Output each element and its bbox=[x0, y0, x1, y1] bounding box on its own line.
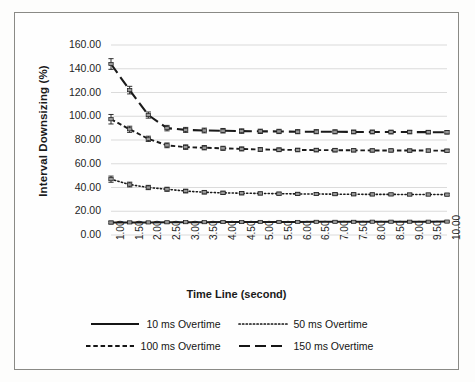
data-point-marker bbox=[165, 188, 169, 191]
y-tick-label: 20.00 bbox=[45, 204, 101, 216]
data-point-marker bbox=[295, 220, 299, 223]
data-point-marker bbox=[221, 191, 225, 194]
data-point-marker bbox=[426, 193, 430, 196]
data-point-marker bbox=[445, 131, 449, 134]
legend-swatch-10ms bbox=[89, 319, 141, 329]
data-point-marker bbox=[221, 220, 225, 223]
series-3 bbox=[108, 59, 449, 134]
y-tick-label: 0.00 bbox=[45, 228, 101, 240]
x-tick-label: 10.00 bbox=[451, 215, 462, 240]
data-point-marker bbox=[389, 193, 393, 196]
legend-item-150ms: 150 ms Overtime bbox=[237, 340, 390, 352]
x-tick-label: 7.50 bbox=[358, 221, 369, 240]
data-point-marker bbox=[277, 220, 281, 223]
data-point-marker bbox=[221, 147, 225, 150]
data-point-marker bbox=[445, 220, 449, 223]
data-point-marker bbox=[258, 192, 262, 195]
data-point-marker bbox=[165, 221, 169, 224]
data-point-marker bbox=[333, 130, 337, 133]
legend-item-10ms: 10 ms Overtime bbox=[89, 318, 236, 330]
data-point-marker bbox=[202, 191, 206, 194]
data-point-marker bbox=[333, 149, 337, 152]
data-point-marker bbox=[258, 148, 262, 151]
data-point-marker bbox=[314, 220, 318, 223]
series-line bbox=[111, 64, 447, 132]
series-1 bbox=[108, 176, 449, 196]
data-point-marker bbox=[127, 89, 131, 92]
x-tick-label: 5.50 bbox=[283, 221, 294, 240]
data-point-marker bbox=[239, 220, 243, 223]
x-tick-label: 8.00 bbox=[376, 221, 387, 240]
data-point-marker bbox=[258, 220, 262, 223]
data-point-marker bbox=[146, 113, 150, 116]
legend-label-100ms: 100 ms Overtime bbox=[141, 340, 221, 352]
data-point-marker bbox=[183, 128, 187, 131]
data-point-marker bbox=[109, 118, 113, 121]
legend-label-50ms: 50 ms Overtime bbox=[294, 318, 368, 330]
y-tick-label: 80.00 bbox=[45, 133, 101, 145]
data-point-marker bbox=[351, 193, 355, 196]
data-point-marker bbox=[239, 129, 243, 132]
data-point-marker bbox=[239, 192, 243, 195]
legend-row-bottom: 100 ms Overtime 150 ms Overtime bbox=[15, 335, 458, 357]
data-point-marker bbox=[109, 62, 113, 65]
x-tick-label: 6.50 bbox=[320, 221, 331, 240]
data-point-marker bbox=[407, 149, 411, 152]
y-tick-label: 140.00 bbox=[45, 62, 101, 74]
data-point-marker bbox=[351, 130, 355, 133]
data-point-marker bbox=[127, 128, 131, 131]
legend-swatch-100ms bbox=[84, 341, 136, 351]
data-point-marker bbox=[146, 221, 150, 224]
data-point-marker bbox=[277, 130, 281, 133]
x-axis-title: Time Line (second) bbox=[15, 288, 458, 300]
x-tick-label: 2.00 bbox=[152, 221, 163, 240]
x-tick-label: 3.00 bbox=[190, 221, 201, 240]
data-point-marker bbox=[426, 220, 430, 223]
data-point-marker bbox=[295, 148, 299, 151]
data-point-marker bbox=[407, 193, 411, 196]
data-point-marker bbox=[370, 149, 374, 152]
data-point-marker bbox=[183, 189, 187, 192]
data-point-marker bbox=[351, 220, 355, 223]
data-point-marker bbox=[426, 131, 430, 134]
x-tick-label: 5.00 bbox=[264, 221, 275, 240]
data-point-marker bbox=[146, 137, 150, 140]
data-point-marker bbox=[146, 186, 150, 189]
data-point-marker bbox=[221, 129, 225, 132]
data-point-marker bbox=[109, 178, 113, 181]
data-point-marker bbox=[389, 220, 393, 223]
data-point-marker bbox=[295, 192, 299, 195]
x-tick-label: 4.00 bbox=[227, 221, 238, 240]
data-point-marker bbox=[445, 149, 449, 152]
legend-item-100ms: 100 ms Overtime bbox=[84, 340, 237, 352]
data-point-marker bbox=[314, 130, 318, 133]
x-tick-label: 3.50 bbox=[208, 221, 219, 240]
legend-row-top: 10 ms Overtime 50 ms Overtime bbox=[15, 313, 458, 335]
data-point-marker bbox=[183, 146, 187, 149]
data-point-marker bbox=[127, 221, 131, 224]
data-point-marker bbox=[407, 130, 411, 133]
data-point-marker bbox=[239, 147, 243, 150]
data-point-marker bbox=[202, 129, 206, 132]
data-point-marker bbox=[277, 192, 281, 195]
data-point-marker bbox=[295, 130, 299, 133]
x-tick-label: 7.00 bbox=[339, 221, 350, 240]
legend-label-150ms: 150 ms Overtime bbox=[294, 340, 374, 352]
data-point-marker bbox=[183, 221, 187, 224]
chart-figure-frame: Interval Downsizing (%) Time Line (secon… bbox=[14, 12, 459, 370]
x-tick-label: 9.00 bbox=[414, 221, 425, 240]
legend-item-50ms: 50 ms Overtime bbox=[237, 318, 384, 330]
plot-area-wrapper: Interval Downsizing (%) Time Line (secon… bbox=[15, 13, 458, 313]
data-point-marker bbox=[389, 149, 393, 152]
x-tick-label: 1.00 bbox=[115, 221, 126, 240]
data-point-marker bbox=[445, 193, 449, 196]
y-tick-label: 100.00 bbox=[45, 109, 101, 121]
data-point-marker bbox=[202, 221, 206, 224]
data-point-marker bbox=[314, 192, 318, 195]
data-point-marker bbox=[109, 221, 113, 224]
data-point-marker bbox=[370, 220, 374, 223]
y-tick-label: 40.00 bbox=[45, 181, 101, 193]
x-tick-label: 8.50 bbox=[395, 221, 406, 240]
data-point-marker bbox=[165, 144, 169, 147]
data-point-marker bbox=[351, 149, 355, 152]
